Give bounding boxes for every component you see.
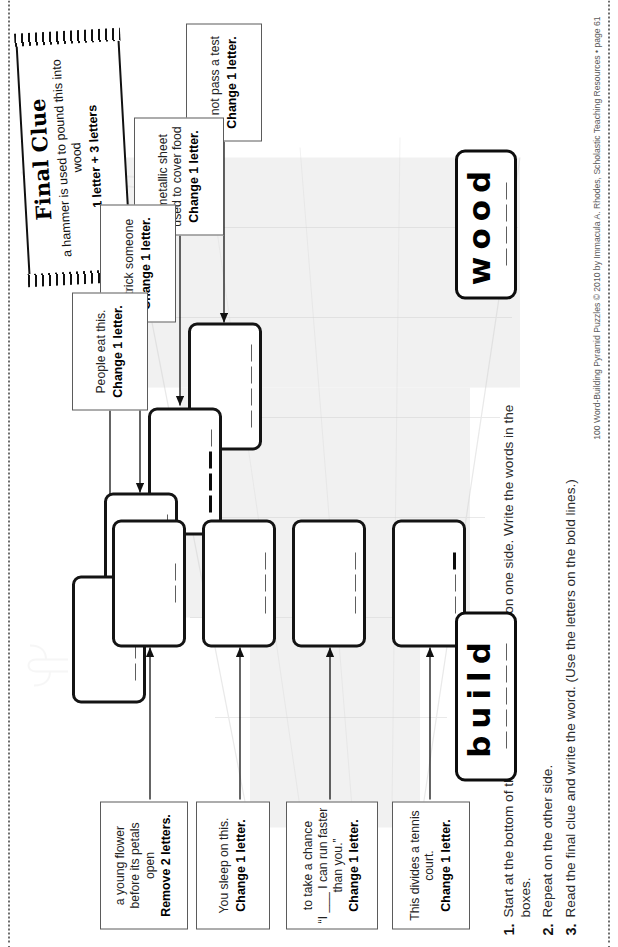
word-text-wood: wood <box>462 152 496 296</box>
answer-line[interactable] <box>265 597 266 614</box>
word-box-wood: wood <box>455 149 517 299</box>
answer-box-6[interactable] <box>292 519 366 647</box>
dotted-edge-bottom <box>608 0 610 947</box>
word-line <box>506 732 507 749</box>
clue-instruction: Change 1 letter. <box>187 130 202 222</box>
answer-line[interactable] <box>251 389 252 406</box>
clue-box-top-4: People eat this. Change 1 letter. <box>72 292 148 410</box>
word-line <box>506 205 507 222</box>
instruction-item: 3. Read the final clue and write the wor… <box>562 375 580 935</box>
clue-box-bottom-3: You sleep on this. Change 1 letter. <box>196 801 270 929</box>
clue-text: This divides a tennis court. <box>408 807 437 923</box>
word-text-build: build <box>462 614 496 778</box>
instruction-item: 2. Repeat on the other side. <box>539 375 557 935</box>
word-lines-build <box>495 614 507 778</box>
word-line <box>506 666 507 683</box>
page-footer: 100 Word-Building Pyramid Puzzles © 2010… <box>592 16 602 439</box>
answer-line-bold[interactable] <box>209 452 212 469</box>
answer-line[interactable] <box>455 575 456 592</box>
answer-line[interactable] <box>175 564 176 581</box>
answer-lines-7 <box>254 522 266 644</box>
word-line <box>506 644 507 661</box>
clue-text: to take a chance “I ___ I can run faster… <box>301 807 345 923</box>
clue-text: to not pass a test <box>208 36 223 129</box>
answer-line[interactable] <box>175 586 176 603</box>
cactus-icon <box>10 627 74 697</box>
answer-line-bold[interactable] <box>209 496 212 513</box>
answer-line-bold[interactable] <box>209 474 212 491</box>
word-line <box>506 688 507 705</box>
clue-instruction: Change 1 letter. <box>347 819 362 911</box>
clue-text: a young flower before its petals open <box>113 807 157 923</box>
answer-lines-6 <box>344 522 356 644</box>
answer-line[interactable] <box>251 411 252 428</box>
answer-line[interactable] <box>265 575 266 592</box>
word-line <box>506 249 507 266</box>
answer-line[interactable] <box>355 575 356 592</box>
clue-instruction: Remove 2 letters. <box>159 814 174 917</box>
answer-box-8[interactable] <box>112 519 186 647</box>
clue-text: You sleep on this. <box>217 817 232 913</box>
clue-box-bottom-4: a young flower before its petals open Re… <box>100 801 188 929</box>
answer-line-bold[interactable] <box>453 553 456 570</box>
instruction-number: 1. <box>500 917 518 935</box>
answer-line[interactable] <box>251 345 252 362</box>
instruction-text: Repeat on the other side. <box>539 764 556 917</box>
word-line <box>506 183 507 200</box>
answer-line[interactable] <box>355 553 356 570</box>
word-lines-wood <box>495 152 507 296</box>
answer-line[interactable] <box>355 597 356 614</box>
answer-line[interactable] <box>251 367 252 384</box>
clue-instruction: Change 1 letter. <box>111 305 126 397</box>
word-line <box>506 710 507 727</box>
answer-lines-2 <box>200 410 212 532</box>
clue-box-bottom-2: to take a chance “I ___ I can run faster… <box>286 801 378 929</box>
answer-line[interactable] <box>455 597 456 614</box>
clue-instruction: Change 1 letter. <box>234 819 249 911</box>
dotted-edge-top <box>8 0 10 947</box>
worksheet-page: Final Clue a hammer is used to pound thi… <box>0 0 618 947</box>
answer-line[interactable] <box>265 553 266 570</box>
answer-lines-8 <box>164 522 176 644</box>
answer-lines-1 <box>240 325 252 447</box>
instruction-number: 3. <box>562 917 580 935</box>
word-box-build: build <box>455 611 517 781</box>
word-line <box>506 227 507 244</box>
clue-text: People eat this. <box>94 309 109 393</box>
answer-line[interactable] <box>135 664 136 681</box>
clue-instruction: Change 1 letter. <box>439 819 454 911</box>
instruction-text: Read the final clue and write the word. … <box>562 479 579 917</box>
instruction-number: 2. <box>539 917 557 935</box>
answer-box-7[interactable] <box>202 519 276 647</box>
clue-instruction: Change 1 letter. <box>225 36 240 128</box>
clue-box-bottom-1: This divides a tennis court. Change 1 le… <box>392 801 470 929</box>
answer-line[interactable] <box>211 430 212 447</box>
